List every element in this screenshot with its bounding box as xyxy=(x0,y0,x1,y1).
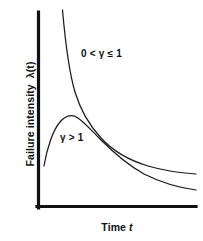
failure-intensity-figure: 0 < γ ≤ 1 γ > 1 Failure intensity λ(t) T… xyxy=(0,0,203,241)
curve-gamma-less-equal-one xyxy=(63,10,197,174)
y-axis-label: Failure intensity λ(t) xyxy=(24,24,36,204)
x-axis-label-symbol: t xyxy=(129,221,133,233)
curve-gamma-greater-one xyxy=(44,116,196,190)
annotation-gamma-less-equal-one: 0 < γ ≤ 1 xyxy=(81,48,122,59)
x-axis-label-text: Time xyxy=(101,221,126,233)
annotation-gamma-greater-one: γ > 1 xyxy=(60,132,84,143)
y-axis-label-text: Failure intensity xyxy=(24,84,36,166)
y-axis-label-symbol: λ(t) xyxy=(24,62,36,79)
x-axis-label: Time t xyxy=(38,221,196,233)
